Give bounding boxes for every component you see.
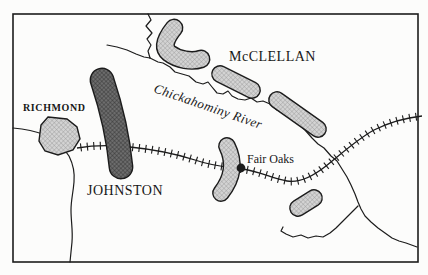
map-canvas: RICHMOND McCLELLAN JOHNSTON Chickahominy… (0, 0, 428, 275)
mcclellan-label: McCLELLAN (229, 49, 316, 64)
richmond-area-shape (39, 117, 80, 155)
union-blob-2 (220, 74, 252, 90)
fair-oaks-label: Fair Oaks (247, 152, 294, 166)
river-stream-west (107, 45, 150, 58)
johnston-label: JOHNSTON (87, 183, 163, 198)
union-blob-south (298, 198, 314, 208)
river-tributary-north (146, 14, 152, 58)
battle-map: RICHMOND McCLELLAN JOHNSTON Chickahominy… (0, 0, 428, 275)
richmond-label: RICHMOND (23, 102, 86, 113)
fair-oaks-marker (237, 164, 246, 173)
confederate-unit-position (102, 80, 121, 167)
union-blob-1 (165, 28, 201, 60)
